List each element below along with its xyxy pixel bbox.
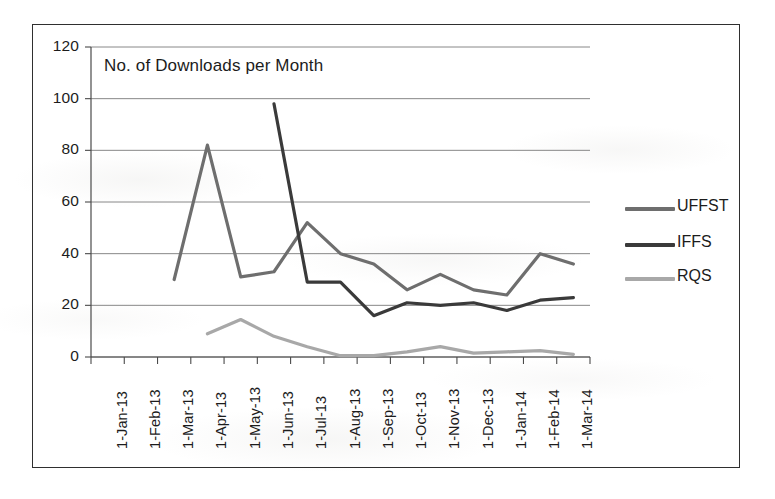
legend-label: IFFS xyxy=(677,233,712,251)
series-line-uffst xyxy=(174,145,573,295)
x-axis-tick-label: 1-Oct-13 xyxy=(413,392,429,449)
series-line-iffs xyxy=(274,104,573,316)
y-axis-tick-label: 100 xyxy=(25,89,79,107)
gridlines-group xyxy=(91,47,590,357)
y-axis-tick-label: 120 xyxy=(25,37,79,55)
x-axis-tick-label: 1-Apr-13 xyxy=(213,392,229,449)
x-axis-tick-label: 1-Jan-13 xyxy=(114,391,130,449)
x-axis-tick-label: 1-Mar-13 xyxy=(180,389,196,449)
legend-color-swatch xyxy=(625,277,675,281)
x-axis-tick-label: 1-Jan-14 xyxy=(513,391,529,449)
chart-title: No. of Downloads per Month xyxy=(104,56,323,76)
x-axis-tick-label: 1-Feb-13 xyxy=(147,389,163,449)
x-axis-tick-label: 1-May-13 xyxy=(247,387,263,449)
x-axis-tick-label: 1-Jun-13 xyxy=(280,391,296,449)
y-axis-tick-label: 80 xyxy=(25,140,79,158)
y-axis-ticks-group xyxy=(85,47,91,357)
x-axis-tick-label: 1-Feb-14 xyxy=(546,389,562,449)
legend-color-swatch xyxy=(625,243,675,247)
y-axis-tick-label: 40 xyxy=(25,244,79,262)
x-axis-tick-label: 1-Mar-14 xyxy=(579,389,595,449)
x-axis-tick-label: 1-Sep-13 xyxy=(380,389,396,449)
legend-color-swatch xyxy=(625,207,675,211)
x-axis-tick-label: 1-Dec-13 xyxy=(480,389,496,449)
x-axis-tick-label: 1-Aug-13 xyxy=(347,389,363,449)
x-axis-tick-label: 1-Jul-13 xyxy=(313,396,329,449)
y-axis-tick-label: 20 xyxy=(25,295,79,313)
x-axis-ticks-group xyxy=(91,357,590,364)
y-axis-tick-label: 0 xyxy=(25,347,79,365)
legend-label: RQS xyxy=(677,267,712,285)
series-line-rqs xyxy=(207,320,573,356)
x-axis-tick-label: 1-Nov-13 xyxy=(446,389,462,449)
legend-label: UFFST xyxy=(677,197,729,215)
data-series-group xyxy=(174,104,573,356)
y-axis-tick-label: 60 xyxy=(25,192,79,210)
